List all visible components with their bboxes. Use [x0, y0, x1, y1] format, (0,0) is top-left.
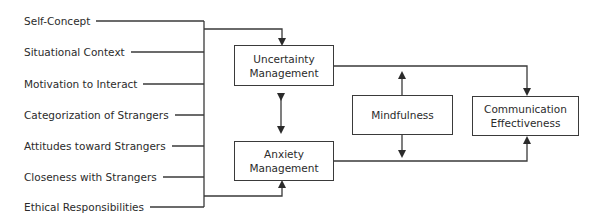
input-label-categorization: Categorization of Strangers	[24, 108, 175, 122]
input-label-closeness: Closeness with Strangers	[24, 170, 163, 184]
box-label: Effectiveness	[484, 116, 567, 130]
communication-effectiveness-box: Communication Effectiveness	[472, 96, 579, 136]
box-label: Communication	[484, 102, 567, 116]
box-label: Mindfulness	[371, 108, 434, 122]
box-label: Management	[249, 66, 318, 80]
mindfulness-box: Mindfulness	[352, 95, 453, 135]
box-label: Uncertainty	[249, 52, 318, 66]
input-label-attitudes: Attitudes toward Strangers	[24, 139, 172, 153]
input-label-motivation: Motivation to Interact	[24, 77, 143, 91]
box-label: Management	[249, 161, 318, 175]
input-label-situational-context: Situational Context	[24, 45, 131, 59]
box-label: Anxiety	[249, 147, 318, 161]
input-label-ethical: Ethical Responsibilities	[24, 200, 150, 214]
input-label-self-concept: Self-Concept	[24, 14, 96, 28]
anxiety-management-box: Anxiety Management	[234, 141, 334, 181]
uncertainty-management-box: Uncertainty Management	[234, 45, 334, 86]
